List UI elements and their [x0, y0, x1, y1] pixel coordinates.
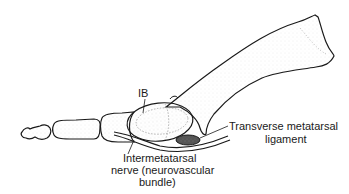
proximal-phalanx — [101, 112, 135, 142]
nerve-label-line2: nerve (neurovascular — [111, 164, 214, 176]
ligament-label-line2: ligament — [265, 133, 307, 145]
nerve-label-line3: bundle) — [139, 176, 176, 188]
nerve-label-line1: Intermetatarsal — [123, 152, 196, 164]
transverse-metatarsal-ligament — [176, 135, 200, 145]
distal-phalanx — [21, 125, 51, 139]
ligament-label-line1: Transverse metatarsal — [229, 120, 338, 132]
ib-label: IB — [138, 87, 148, 99]
middle-phalanx — [53, 119, 101, 139]
